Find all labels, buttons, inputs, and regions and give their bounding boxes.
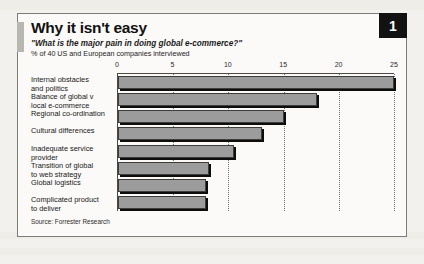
bar (118, 110, 284, 123)
bar (118, 179, 206, 192)
bar (118, 127, 262, 140)
x-axis-tick-label: 10 (224, 61, 232, 68)
category-label: Internal obstaclesand politics (31, 75, 113, 93)
plot-area: 0510152025 Internal obstaclesand politic… (31, 61, 394, 211)
bar (118, 196, 206, 209)
left-edge-tab (17, 22, 24, 52)
x-axis-tick-label: 15 (279, 61, 287, 68)
category-label: Balance of global vlocal e-commerce (31, 92, 113, 110)
page-background: 1 Why it isn't easy "What is the major p… (0, 0, 424, 264)
paper-texture-band (0, 248, 424, 255)
bar (118, 76, 394, 89)
chart-units-note: % of 40 US and European companies interv… (31, 50, 370, 59)
source-note: Source: Forrester Research (31, 218, 110, 225)
bar (118, 145, 234, 158)
category-label: Cultural differences (31, 126, 113, 135)
category-label: Inadequate serviceprovider (31, 144, 113, 162)
x-axis-tick-label: 20 (335, 61, 343, 68)
chart-subtitle: "What is the major pain in doing global … (31, 39, 370, 48)
chart-figure-panel: 1 Why it isn't easy "What is the major p… (17, 13, 407, 237)
x-axis-tick-label: 25 (390, 61, 398, 68)
gridline (394, 74, 395, 211)
gridline (339, 74, 340, 211)
category-label: Global logistics (31, 178, 113, 187)
bar (118, 93, 317, 106)
figure-number-badge: 1 (379, 13, 407, 38)
figure-header: Why it isn't easy "What is the major pai… (31, 20, 370, 58)
bars-container (117, 74, 394, 211)
category-label: Transition of globalto web strategy (31, 161, 113, 179)
paper-texture-band (0, 0, 424, 10)
category-labels: Internal obstaclesand politicsBalance of… (31, 74, 115, 211)
bar (118, 162, 209, 175)
x-axis-tick-label: 0 (115, 61, 119, 68)
chart-title: Why it isn't easy (31, 20, 370, 36)
x-axis-tick-label: 5 (170, 61, 174, 68)
category-label: Regional co-ordination (31, 109, 113, 118)
category-label: Complicated productto deliver (31, 195, 113, 213)
